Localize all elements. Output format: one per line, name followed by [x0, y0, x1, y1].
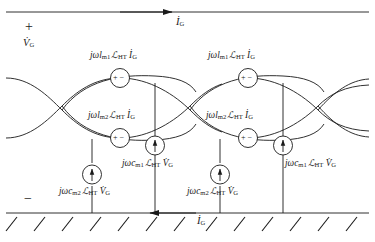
m2-part: m2 — [100, 113, 108, 120]
script-L-part: ℒ — [111, 50, 118, 60]
label-isrc-c-m1-left: jωcm1 ℒHT V̇G — [122, 159, 173, 169]
current-source-c-m2-right-symbol[interactable] — [211, 165, 230, 184]
minus-glyph: − — [120, 133, 125, 142]
label-isrc-c-m2-left: jωcm2 ℒHT V̇G — [59, 187, 110, 197]
script-L-part: ℒ — [210, 186, 217, 196]
jw-part: jω — [208, 50, 217, 60]
port-plus-sign: + — [25, 20, 33, 34]
label-isrc-c-m1-right: jωcm1 ℒHT V̇G — [285, 159, 336, 169]
HT-part: HT — [234, 113, 243, 120]
G-part: G — [130, 113, 135, 120]
m1-part: m1 — [220, 53, 228, 60]
HT-part: HT — [116, 113, 125, 120]
port-minus-sign: − — [24, 192, 32, 206]
m1-part: m1 — [298, 161, 306, 168]
m1-part: m1 — [135, 161, 143, 168]
jw-part: jω — [285, 158, 294, 168]
HT-part: HT — [118, 53, 127, 60]
script-L-part: ℒ — [82, 186, 89, 196]
label-isrc-c-m2-right: jωcm2 ℒHT V̇G — [187, 187, 238, 197]
script-L-part: ℒ — [227, 110, 234, 120]
polarity-l-m1-right: + − — [241, 74, 252, 82]
circuit-schematic-canvas — [0, 0, 375, 242]
circuit-diagram: + V̇G − İG İG + − + − + − + − jωlm1 ℒH… — [0, 0, 375, 242]
minus-glyph: − — [248, 73, 253, 82]
m2-part: m2 — [218, 113, 226, 120]
HT-part: HT — [315, 161, 324, 168]
label-vsrc-l-m1-left: jωlm1 ℒHT İG — [90, 51, 137, 61]
HT-part: HT — [89, 189, 98, 196]
top-current-subscript: G — [180, 20, 185, 27]
port-voltage-label: V̇G — [23, 38, 34, 49]
HT-part: HT — [217, 189, 226, 196]
G-part: G — [331, 161, 336, 168]
transposed-line-weave — [6, 76, 369, 141]
current-source-c-m1-left-symbol[interactable] — [146, 136, 165, 155]
current-source-c-m1-right-symbol[interactable] — [274, 136, 293, 155]
top-current-label: İG — [176, 17, 184, 28]
label-vsrc-l-m2-left: jωlm2 ℒHT İG — [88, 111, 135, 121]
HT-part: HT — [152, 161, 161, 168]
jw-part: jω — [122, 158, 131, 168]
minus-glyph: − — [248, 133, 253, 142]
G-part: G — [250, 53, 255, 60]
current-source-c-m2-left-symbol[interactable] — [83, 165, 102, 184]
minus-glyph: − — [120, 73, 125, 82]
port-voltage-subscript: G — [29, 41, 34, 48]
G-part: G — [248, 113, 253, 120]
jw-part: jω — [206, 110, 215, 120]
plus-glyph: + — [241, 133, 246, 142]
polarity-l-m1-left: + − — [113, 74, 124, 82]
m1-part: m1 — [102, 53, 110, 60]
label-vsrc-l-m2-right: jωlm2 ℒHT İG — [206, 111, 253, 121]
bottom-current-label: İG — [197, 216, 205, 227]
script-L-part: ℒ — [308, 158, 315, 168]
script-L-part: ℒ — [145, 158, 152, 168]
m2-part: m2 — [72, 189, 80, 196]
jw-part: jω — [59, 186, 68, 196]
jw-part: jω — [90, 50, 99, 60]
G-part: G — [168, 161, 173, 168]
label-vsrc-l-m1-right: jωlm1 ℒHT İG — [208, 51, 255, 61]
script-L-part: ℒ — [109, 110, 116, 120]
G-part: G — [105, 189, 110, 196]
plus-glyph: + — [113, 73, 118, 82]
G-part: G — [233, 189, 238, 196]
bottom-current-subscript: G — [201, 219, 206, 226]
polarity-l-m2-left: + − — [113, 134, 124, 142]
HT-part: HT — [236, 53, 245, 60]
polarity-l-m2-right: + − — [241, 134, 252, 142]
jw-part: jω — [187, 186, 196, 196]
ground-hatch — [6, 217, 357, 231]
G-part: G — [132, 53, 137, 60]
script-L-part: ℒ — [229, 50, 236, 60]
m2-part: m2 — [200, 189, 208, 196]
plus-glyph: + — [113, 133, 118, 142]
jw-part: jω — [88, 110, 97, 120]
plus-glyph: + — [241, 73, 246, 82]
